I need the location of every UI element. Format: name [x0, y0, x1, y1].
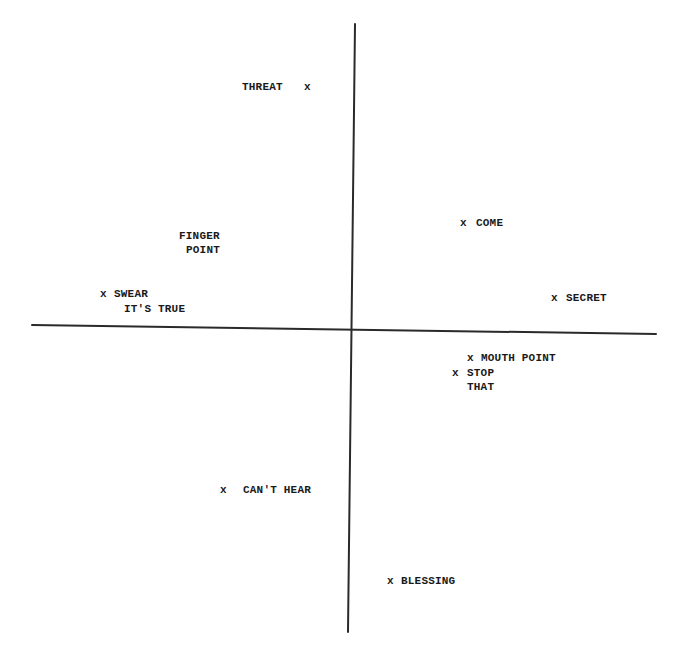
- x-marker-icon: x: [387, 575, 394, 587]
- point-label: CAN'T HEAR: [243, 484, 311, 496]
- point-swear-its-true: x SWEAR IT'S TRUE: [100, 288, 185, 315]
- point-label: BLESSING: [401, 575, 456, 587]
- point-come: x COME: [460, 217, 503, 229]
- point-label: MOUTH POINT: [481, 352, 556, 364]
- horizontal-axis: [32, 325, 656, 334]
- point-label: POINT: [186, 244, 220, 256]
- point-label: STOP: [467, 367, 494, 379]
- point-threat: THREAT x: [242, 81, 311, 93]
- point-label: SECRET: [566, 292, 607, 304]
- point-mouth-point: x MOUTH POINT: [467, 352, 556, 364]
- x-marker-icon: x: [304, 81, 311, 93]
- point-label: THREAT: [242, 81, 283, 93]
- point-label: FINGER: [179, 230, 220, 242]
- point-finger-point: FINGER POINT: [179, 230, 220, 256]
- x-marker-icon: x: [452, 367, 459, 379]
- point-stop-that: x STOP THAT: [452, 367, 494, 393]
- point-cant-hear: x CAN'T HEAR: [220, 484, 311, 496]
- x-marker-icon: x: [460, 217, 467, 229]
- point-label: THAT: [467, 381, 494, 393]
- x-marker-icon: x: [467, 352, 474, 364]
- vertical-axis: [348, 24, 355, 632]
- point-secret: x SECRET: [551, 292, 607, 304]
- x-marker-icon: x: [100, 288, 107, 300]
- scatter-plot: THREAT x FINGER POINT x SWEAR IT'S TRUE …: [0, 0, 685, 659]
- x-marker-icon: x: [551, 292, 558, 304]
- point-label: IT'S TRUE: [124, 303, 185, 315]
- x-marker-icon: x: [220, 484, 227, 496]
- point-blessing: x BLESSING: [387, 575, 456, 587]
- point-label: SWEAR: [114, 288, 148, 300]
- point-label: COME: [476, 217, 503, 229]
